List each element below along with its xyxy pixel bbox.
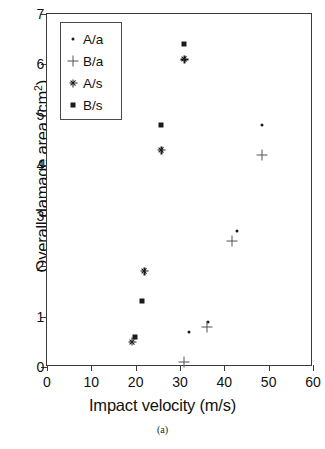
x-tick-40 bbox=[224, 365, 225, 371]
x-tick-label-40: 40 bbox=[217, 374, 233, 390]
plot-area: 01234567 0102030405060 A/aB/aA/sB/s bbox=[46, 13, 312, 366]
legend-item-B-s[interactable]: B/s bbox=[61, 94, 121, 116]
legend-item-A-s[interactable]: A/s bbox=[61, 72, 121, 94]
y-axis-title-superscript: 2 bbox=[32, 85, 44, 91]
x-tick-10 bbox=[91, 365, 92, 371]
marker-square bbox=[71, 103, 76, 108]
data-point-A-s-3 bbox=[180, 55, 189, 64]
marker-dot bbox=[72, 38, 75, 41]
x-tick-label-0: 0 bbox=[43, 374, 51, 390]
y-tick-label-3: 3 bbox=[37, 208, 45, 224]
y-tick-label-0: 0 bbox=[37, 359, 45, 375]
legend-marker-dot-icon bbox=[65, 31, 81, 47]
y-tick-label-2: 2 bbox=[37, 258, 45, 274]
y-tick-label-4: 4 bbox=[37, 157, 45, 173]
legend-label: A/a bbox=[83, 32, 103, 47]
x-tick-label-60: 60 bbox=[305, 374, 321, 390]
x-tick-50 bbox=[269, 365, 270, 371]
x-tick-label-30: 30 bbox=[172, 374, 188, 390]
legend-marker-square-icon bbox=[65, 97, 81, 113]
marker-plus bbox=[68, 56, 79, 67]
legend-label: B/s bbox=[83, 98, 103, 113]
data-point-B-s-0 bbox=[132, 334, 137, 339]
x-tick-label-20: 20 bbox=[128, 374, 144, 390]
x-tick-0 bbox=[47, 365, 48, 371]
x-tick-label-50: 50 bbox=[261, 374, 277, 390]
x-tick-20 bbox=[136, 365, 137, 371]
legend-item-B-a[interactable]: B/a bbox=[61, 50, 121, 72]
legend-label: B/a bbox=[83, 54, 103, 69]
x-tick-60 bbox=[313, 365, 314, 371]
data-point-B-a-1 bbox=[201, 321, 212, 332]
data-point-A-a-2 bbox=[235, 229, 238, 232]
data-point-B-s-1 bbox=[140, 299, 145, 304]
data-point-B-a-2 bbox=[227, 235, 238, 246]
x-tick-label-10: 10 bbox=[84, 374, 100, 390]
data-point-A-a-3 bbox=[261, 123, 264, 126]
legend: A/aB/aA/sB/s bbox=[60, 22, 122, 120]
legend-label: A/s bbox=[83, 76, 103, 91]
legend-marker-plus-icon bbox=[65, 53, 81, 69]
data-point-A-a-0 bbox=[187, 330, 190, 333]
marker-asterisk bbox=[69, 79, 78, 88]
y-tick-label-1: 1 bbox=[37, 309, 45, 325]
data-point-B-a-0 bbox=[179, 356, 190, 367]
y-tick-label-5: 5 bbox=[37, 107, 45, 123]
data-point-A-s-1 bbox=[140, 267, 149, 276]
figure-caption: (a) bbox=[0, 424, 325, 435]
legend-rows: A/aB/aA/sB/s bbox=[61, 28, 121, 116]
y-tick-label-6: 6 bbox=[37, 56, 45, 72]
y-tick-label-7: 7 bbox=[37, 6, 45, 22]
legend-item-A-a[interactable]: A/a bbox=[61, 28, 121, 50]
x-axis-title: Impact velocity (m/s) bbox=[0, 396, 325, 415]
data-point-B-s-3 bbox=[182, 42, 187, 47]
data-point-B-s-2 bbox=[159, 122, 164, 127]
data-point-B-a-3 bbox=[257, 150, 268, 161]
legend-marker-asterisk-icon bbox=[65, 75, 81, 91]
data-point-A-s-2 bbox=[157, 146, 166, 155]
figure-panel: Overall damage area (cm2) 01234567 01020… bbox=[0, 0, 325, 449]
